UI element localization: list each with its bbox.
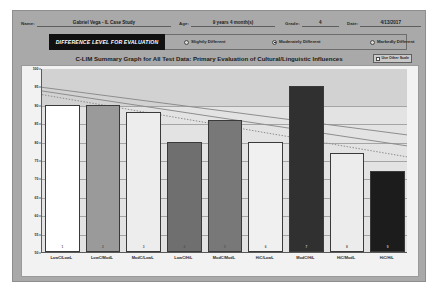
bar[interactable]: 5 — [208, 120, 243, 252]
bar-index-label: 2 — [87, 245, 120, 249]
age-label: Age: — [179, 21, 191, 27]
y-axis-tick-label: 100 — [33, 67, 39, 71]
y-axis-tick-label: 60 — [35, 214, 39, 218]
plot-box: 123456789 — [41, 69, 407, 253]
bar[interactable]: 1 — [45, 105, 80, 252]
radio-label: Markedly Different — [377, 39, 415, 45]
clim-form-panel: Name: Gabriel Vega - IL Case Study Age: … — [12, 10, 426, 282]
name-value[interactable]: Gabriel Vega - IL Case Study — [37, 20, 171, 27]
difference-level-bar: DIFFERENCE LEVEL FOR EVALUATION Slightly… — [49, 34, 407, 50]
grade-label: Grade: — [285, 21, 302, 27]
use-other-scale-toggle[interactable]: Use Other Scale — [373, 54, 412, 63]
checkbox-icon[interactable] — [376, 57, 380, 61]
bar-series: 123456789 — [42, 69, 407, 252]
name-label: Name: — [21, 21, 37, 27]
bar[interactable]: 9 — [370, 171, 405, 252]
x-axis-tick-label: HiC/LowL — [244, 255, 285, 261]
difference-level-radio-group: Slightly Different Moderately Different … — [170, 35, 406, 51]
y-axis-tick-label: 95 — [35, 85, 39, 89]
chart-plot-area: 10095908580757065605550 123456789 LowC/L… — [27, 69, 415, 273]
date-value[interactable]: 4/13/2017 — [360, 20, 421, 27]
y-axis: 10095908580757065605550 — [27, 69, 41, 255]
bar-index-label: 8 — [331, 245, 364, 249]
demographics-row: Name: Gabriel Vega - IL Case Study Age: … — [13, 14, 427, 30]
use-other-scale-label: Use Other Scale — [382, 56, 410, 61]
bar[interactable]: 4 — [167, 142, 202, 252]
x-axis-labels: LowC/LowLLowC/ModLModC/LowLLowC/HiLModC/… — [41, 255, 407, 269]
bar-index-label: 6 — [249, 245, 282, 249]
radio-slightly-different[interactable]: Slightly Different — [184, 39, 225, 45]
x-axis-tick-label: LowC/ModL — [82, 255, 123, 261]
x-axis-tick-label: HiC/HiL — [366, 255, 407, 261]
radio-icon[interactable] — [370, 40, 375, 45]
bar-index-label: 5 — [209, 245, 242, 249]
application-window: Name: Gabriel Vega - IL Case Study Age: … — [0, 0, 437, 292]
radio-icon[interactable] — [184, 40, 189, 45]
y-axis-tick-label: 85 — [35, 122, 39, 126]
bar-index-label: 3 — [127, 245, 160, 249]
grade-value[interactable]: 4 — [302, 20, 339, 27]
y-axis-tick-label: 90 — [35, 104, 39, 108]
bar[interactable]: 2 — [86, 105, 121, 252]
radio-label: Moderately Different — [279, 39, 321, 45]
x-axis-tick-label: HiC/ModL — [326, 255, 367, 261]
bar-index-label: 7 — [290, 245, 323, 249]
age-value[interactable]: 9 years 4 month(s) — [191, 20, 275, 27]
y-axis-tick-label: 55 — [35, 233, 39, 237]
x-axis-tick-label: ModC/HiL — [285, 255, 326, 261]
chart-panel: 10095908580757065605550 123456789 LowC/L… — [21, 65, 419, 277]
x-axis-tick-label: LowC/LowL — [41, 255, 82, 261]
y-axis-tick-label: 50 — [35, 251, 39, 255]
x-axis-tick-label: ModC/ModL — [204, 255, 245, 261]
x-axis-tick-label: LowC/HiL — [163, 255, 204, 261]
x-axis-tick-label: ModC/LowL — [122, 255, 163, 261]
radio-icon-selected[interactable] — [272, 40, 277, 45]
difference-level-banner: DIFFERENCE LEVEL FOR EVALUATION — [49, 34, 165, 50]
bar[interactable]: 3 — [126, 112, 161, 252]
y-axis-tick-label: 70 — [35, 177, 39, 181]
date-label: Date: — [347, 21, 360, 27]
name-field[interactable]: Name: Gabriel Vega - IL Case Study — [21, 14, 171, 27]
bar-index-label: 4 — [168, 245, 201, 249]
date-field[interactable]: Date: 4/13/2017 — [347, 14, 421, 27]
y-axis-tick-label: 75 — [35, 159, 39, 163]
age-field[interactable]: Age: 9 years 4 month(s) — [179, 14, 275, 27]
y-axis-tick-label: 80 — [35, 141, 39, 145]
bar-index-label: 9 — [371, 245, 404, 249]
bar[interactable]: 6 — [248, 142, 283, 252]
y-axis-tick-label: 65 — [35, 196, 39, 200]
bar[interactable]: 8 — [330, 153, 365, 252]
grade-field[interactable]: Grade: 4 — [285, 14, 339, 27]
radio-markedly-different[interactable]: Markedly Different — [370, 39, 415, 45]
bar-index-label: 1 — [46, 245, 79, 249]
chart-title: C-LIM Summary Graph for All Test Data: P… — [49, 54, 369, 63]
radio-label: Slightly Different — [191, 39, 225, 45]
radio-moderately-different[interactable]: Moderately Different — [272, 39, 321, 45]
bar[interactable]: 7 — [289, 86, 324, 252]
